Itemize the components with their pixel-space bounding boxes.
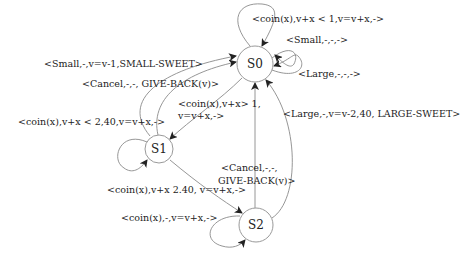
svg-text:S0: S0 [247, 57, 263, 71]
edge-s0-self-coin [238, 4, 275, 46]
label-s0-self-coin: <coin(x),v+x < 1,v=v+x,-> [252, 13, 384, 24]
label-s1-s0-small: <Small,-,v=v-1,SMALL-SWEET> [44, 58, 203, 69]
svg-text:S2: S2 [248, 218, 264, 232]
state-s1: S1 [145, 135, 173, 163]
state-s0: S0 [237, 46, 273, 82]
label-s2-self-coin: <coin(x),-,v=v+x,-> [121, 212, 217, 223]
label-s1-self-coin: <coin(x),v+x < 2,40,v=v+x,-> [18, 116, 165, 127]
label-s2-s0-large: <Large,-,v=v-2,40, LARGE-SWEET> [283, 108, 460, 119]
label-s0-self-small: <Small,-,-,-> [286, 34, 348, 45]
state-s2: S2 [239, 208, 273, 242]
edge-s0-self-small [272, 51, 296, 67]
label-s2-s0-cancel-2: GIVE-BACK(v)> [218, 175, 295, 186]
label-s0-s1-coin-2: v=v+x,-> [177, 110, 224, 121]
state-diagram: S0 S1 S2 <coin(x),v+x < 1,v=v+x,-> <Smal… [0, 0, 474, 263]
svg-text:S1: S1 [151, 142, 167, 156]
label-s2-s0-cancel-1: <Cancel,-,-, [221, 162, 277, 173]
edge-s2-s0-large [266, 80, 292, 218]
edge-s1-self-coin [118, 139, 147, 171]
label-s1-s0-cancel: <Cancel,-,-, GIVE-BACK(v)> [82, 78, 219, 89]
label-s0-s1-coin-1: <coin(x),v+x> 1, [178, 98, 261, 109]
label-s0-self-large: <Large,-,-,-> [298, 68, 361, 79]
